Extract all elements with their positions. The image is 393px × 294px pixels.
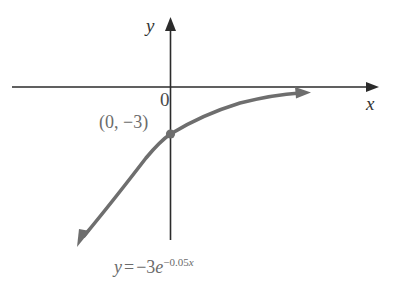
y-axis-arrowhead xyxy=(165,17,176,31)
equation-equals: = xyxy=(122,257,136,277)
point-coordinate-label: (0, −3) xyxy=(99,113,148,131)
point-marker xyxy=(166,129,175,138)
exponential-graph-figure: y x 0 (0, −3) y=−3e−0.05x xyxy=(0,0,393,294)
x-axis-label: x xyxy=(366,94,374,113)
equation-exponent-variable: x xyxy=(189,256,194,268)
y-axis-label: y xyxy=(146,16,154,35)
equation-exponent: −0.05x xyxy=(163,256,193,268)
curve-arrowhead-left xyxy=(77,229,90,247)
equation-coefficient: −3 xyxy=(136,257,155,277)
curve-arrowhead-right xyxy=(295,87,311,99)
origin-label: 0 xyxy=(160,90,170,109)
equation-lhs: y xyxy=(114,257,122,277)
equation-exponent-coefficient: −0.05 xyxy=(163,256,188,268)
equation-label: y=−3e−0.05x xyxy=(114,258,194,276)
graph-canvas xyxy=(0,0,393,294)
x-axis-arrowhead xyxy=(366,82,379,92)
